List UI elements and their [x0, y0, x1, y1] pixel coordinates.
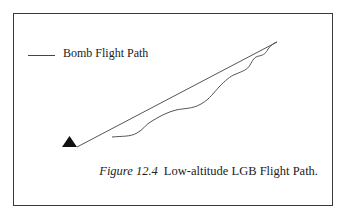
figure-caption: Figure 12.4Low-altitude LGB Flight Path.: [0, 164, 318, 179]
triangle-marker-icon: [62, 136, 77, 147]
figure-number: Figure 12.4: [99, 164, 158, 178]
figure-title: Low-altitude LGB Flight Path.: [164, 164, 318, 178]
line-of-sight: [77, 42, 277, 147]
flight-path-diagram: [0, 0, 348, 219]
bomb-flight-path-curve: [112, 42, 277, 137]
